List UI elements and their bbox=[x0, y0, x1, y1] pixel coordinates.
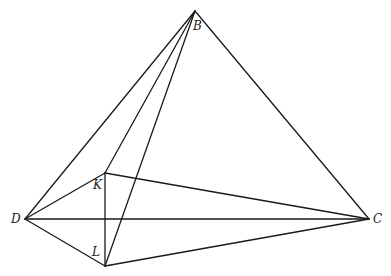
point-label-b: B bbox=[193, 20, 202, 32]
geometry-diagram: B D C K L bbox=[0, 0, 391, 276]
segment-bk bbox=[105, 11, 195, 173]
segment-bl bbox=[105, 11, 195, 266]
segment-kc bbox=[105, 173, 369, 219]
point-label-k: K bbox=[93, 179, 102, 191]
segment-bc bbox=[195, 11, 369, 219]
point-label-c: C bbox=[373, 213, 382, 225]
point-label-l: L bbox=[92, 246, 100, 258]
diagram-lines bbox=[0, 0, 391, 276]
segment-bd bbox=[25, 11, 195, 219]
point-label-d: D bbox=[11, 213, 21, 225]
segment-lc bbox=[105, 219, 369, 266]
